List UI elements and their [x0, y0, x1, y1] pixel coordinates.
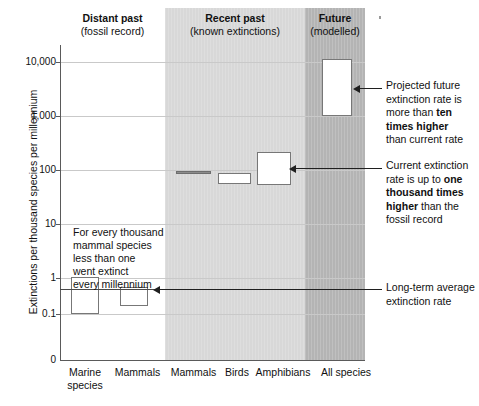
- fossil-record-note-line2: mammal species: [73, 239, 178, 252]
- callout-current-line3: thousand times: [386, 186, 479, 200]
- era-subtitle-distant-past: (fossil record): [60, 25, 165, 38]
- callout-leader-current: [296, 168, 382, 169]
- y-tickmark-10000: [56, 62, 61, 63]
- callout-arrowhead-current-icon: [289, 165, 296, 173]
- callout-future-line3: more than ten: [386, 106, 479, 120]
- callout-average-line1: Long-term average: [386, 281, 479, 295]
- callout-arrowhead-average-icon: [153, 286, 160, 294]
- callout-current-line2: rate is up to one: [386, 173, 479, 187]
- callout-future-projection: Projected future extinction rate is more…: [386, 79, 479, 147]
- x-tick-mammals-recent-past-label: Mammals: [166, 366, 221, 379]
- callout-current-line2-bold: one: [444, 173, 463, 185]
- callout-current-rate: Current extinction rate is up to one tho…: [386, 159, 479, 227]
- y-tickmark-1: [56, 278, 61, 279]
- callout-long-term-average: Long-term average extinction rate: [386, 281, 479, 308]
- y-tick-10000: 10,000: [0, 57, 56, 67]
- y-tickmark-100: [56, 170, 61, 171]
- gridline-1000: [60, 116, 365, 117]
- callout-future-line4: times higher: [386, 120, 479, 134]
- callout-average-line2: extinction rate: [386, 295, 479, 309]
- callout-current-line5: fossil record: [386, 213, 479, 227]
- x-tick-amphibians: Amphibians: [252, 366, 314, 379]
- y-tickmark-0point1: [56, 314, 61, 315]
- callout-future-line2: extinction rate is: [386, 93, 479, 107]
- callout-current-line4-plain: than the: [418, 200, 459, 212]
- x-tick-birds: Birds: [220, 366, 254, 379]
- y-tick-0: 0: [0, 355, 56, 365]
- x-tick-all-species: All species: [315, 366, 377, 379]
- y-tick-label-10000: 10,000: [4, 57, 56, 67]
- fossil-record-note: For every thousand mammal species less t…: [73, 226, 178, 291]
- data-bar-mammals-recent-past: [176, 171, 211, 174]
- callout-future-line4-bold: times higher: [386, 120, 448, 132]
- x-tick-mammals-recent-past: Mammals: [166, 366, 221, 379]
- callout-future-line5: than current rate: [386, 133, 479, 147]
- y-tickmark-1000: [56, 116, 61, 117]
- y-tickmark-10: [56, 224, 61, 225]
- data-box-birds-recent-past: [218, 173, 251, 184]
- x-tick-amphibians-label: Amphibians: [252, 366, 314, 379]
- y-tick-label-0: 0: [4, 355, 56, 365]
- y-axis-line: [60, 45, 61, 360]
- callout-current-line1: Current extinction: [386, 159, 479, 173]
- callout-current-line4-bold: higher: [386, 200, 418, 212]
- fossil-record-note-line4: went extinct: [73, 265, 178, 278]
- y-axis-title: Extinctions per thousand species per mil…: [27, 72, 39, 332]
- x-tick-marine-species-line2: species: [60, 379, 110, 392]
- gridline-10000: [60, 62, 365, 63]
- callout-current-line3-bold: thousand times: [386, 186, 464, 198]
- print-speck: [379, 16, 381, 19]
- data-box-all-species-future: [322, 59, 352, 116]
- fossil-record-note-line1: For every thousand: [73, 226, 178, 239]
- callout-current-line4: higher than the: [386, 200, 479, 214]
- callout-future-line3-plain: more than: [386, 106, 436, 118]
- callout-leader-future: [360, 88, 382, 89]
- era-subtitle-recent-past: (known extinctions): [165, 25, 305, 38]
- callout-current-line2-plain: rate is up to: [386, 173, 444, 185]
- era-header-distant-past: Distant past (fossil record): [60, 12, 165, 38]
- gridline-0point1: [60, 314, 365, 315]
- x-tick-marine-species-line1: Marine: [60, 366, 110, 379]
- x-axis-line: [60, 360, 365, 361]
- fossil-record-note-line3: less than one: [73, 252, 178, 265]
- era-title-recent-past: Recent past: [165, 12, 305, 25]
- x-tick-mammals-distant-past-label: Mammals: [110, 366, 165, 379]
- x-tick-marine-species: Marine species: [60, 366, 110, 391]
- gridline-100: [60, 170, 365, 171]
- callout-future-line3-bold: ten: [436, 106, 452, 118]
- era-header-future: Future (modelled): [305, 12, 365, 38]
- x-tick-mammals-distant-past: Mammals: [110, 366, 165, 379]
- callout-leader-average: [160, 289, 382, 290]
- data-box-amphibians-recent-past: [257, 152, 291, 185]
- callout-future-line1: Projected future: [386, 79, 479, 93]
- gridline-10: [60, 224, 365, 225]
- era-title-distant-past: Distant past: [60, 12, 165, 25]
- callout-arrowhead-future-icon: [353, 85, 360, 93]
- era-subtitle-future: (modelled): [305, 25, 365, 38]
- x-tick-all-species-label: All species: [315, 366, 377, 379]
- era-title-future: Future: [305, 12, 365, 25]
- era-header-recent-past: Recent past (known extinctions): [165, 12, 305, 38]
- x-tick-birds-label: Birds: [220, 366, 254, 379]
